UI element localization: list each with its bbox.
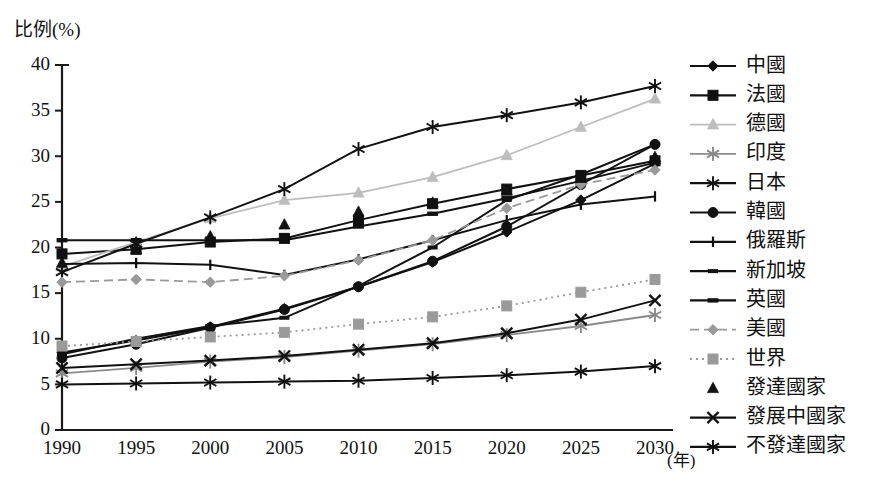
data-point xyxy=(708,90,718,100)
legend-label: 德國 xyxy=(746,112,786,134)
data-point xyxy=(428,312,438,322)
series-德國 xyxy=(56,93,660,271)
x-axis-unit-label: (年) xyxy=(667,451,695,470)
triangle-marker xyxy=(205,231,216,241)
x-tick-label: 2000 xyxy=(191,437,229,458)
data-point xyxy=(353,224,364,228)
legend-item-新加坡[interactable]: 新加坡 xyxy=(690,259,806,281)
square-marker xyxy=(576,287,586,297)
data-point xyxy=(131,274,141,284)
legend-label: 發達國家 xyxy=(746,376,826,398)
bar-marker xyxy=(353,224,364,228)
square-marker xyxy=(428,312,438,322)
data-point xyxy=(131,336,141,346)
data-point xyxy=(427,235,437,245)
data-point xyxy=(57,277,67,287)
square-marker xyxy=(279,327,289,337)
bar-marker xyxy=(57,238,68,242)
series-發展中國家 xyxy=(56,295,660,374)
diamond-marker xyxy=(502,203,512,213)
data-point xyxy=(205,332,215,342)
y-tick-label: 30 xyxy=(31,145,50,166)
x-tick-label: 2020 xyxy=(488,437,526,458)
series-英國 xyxy=(57,160,661,242)
legend-item-韓國[interactable]: 韓國 xyxy=(690,200,786,222)
y-axis-title: 比例(%) xyxy=(14,19,80,41)
bar-marker xyxy=(501,196,512,200)
x-tick-label: 1995 xyxy=(117,437,155,458)
legend-label: 法國 xyxy=(746,83,786,105)
legend-item-法國[interactable]: 法國 xyxy=(690,83,786,105)
y-tick-label: 20 xyxy=(31,236,50,257)
square-marker xyxy=(354,319,364,329)
legend-item-美國[interactable]: 美國 xyxy=(690,317,786,339)
data-point xyxy=(502,301,512,311)
legend-item-俄羅斯[interactable]: 俄羅斯 xyxy=(690,229,806,251)
legend-label: 美國 xyxy=(746,317,786,339)
square-marker xyxy=(57,341,67,351)
triangle-marker xyxy=(649,93,660,103)
data-point xyxy=(353,255,363,265)
data-point xyxy=(708,354,718,364)
data-point xyxy=(708,298,719,302)
series-line xyxy=(62,99,655,267)
legend-item-德國[interactable]: 德國 xyxy=(690,112,786,134)
legend-label: 日本 xyxy=(746,171,786,193)
y-tick-label: 10 xyxy=(31,327,50,348)
data-point xyxy=(57,352,67,356)
legend-label: 不發達國家 xyxy=(746,434,846,456)
legend-label: 俄羅斯 xyxy=(746,229,806,251)
x-tick-label: 2015 xyxy=(414,437,452,458)
square-marker xyxy=(708,354,718,364)
y-tick-label: 35 xyxy=(31,99,50,120)
legend-item-發達國家[interactable]: 發達國家 xyxy=(707,376,826,398)
data-point xyxy=(278,182,290,196)
diamond-marker xyxy=(708,325,718,335)
diamond-marker xyxy=(279,271,289,281)
chart-container: 0510152025303540199019952000200520102015… xyxy=(0,0,891,486)
series-發達國家 xyxy=(56,151,660,267)
dash-marker xyxy=(279,316,289,320)
data-point xyxy=(205,231,216,241)
population-aging-line-chart: 0510152025303540199019952000200520102015… xyxy=(0,0,891,486)
data-point xyxy=(502,203,512,213)
dash-marker xyxy=(57,352,67,356)
data-point xyxy=(650,274,660,284)
circle-marker xyxy=(708,208,718,218)
y-tick-label: 15 xyxy=(31,281,50,302)
data-point xyxy=(57,341,67,351)
data-point xyxy=(205,324,215,328)
legend-item-發展中國家[interactable]: 發展中國家 xyxy=(690,405,846,427)
axis-group: 0510152025303540199019952000200520102015… xyxy=(14,19,695,470)
legend-label: 英國 xyxy=(746,288,786,310)
data-point xyxy=(354,284,364,288)
x-tick-label: 2010 xyxy=(340,437,378,458)
legend-item-世界[interactable]: 世界 xyxy=(690,347,786,369)
y-tick-label: 40 xyxy=(31,53,50,74)
legend: 中國法國德國印度日本韓國俄羅斯新加坡英國美國世界發達國家發展中國家不發達國家 xyxy=(690,54,846,457)
data-point xyxy=(708,269,718,273)
legend-item-中國[interactable]: 中國 xyxy=(690,54,786,76)
legend-item-日本[interactable]: 日本 xyxy=(690,171,786,193)
legend-label: 世界 xyxy=(746,347,786,369)
legend-label: 印度 xyxy=(746,141,786,163)
square-marker xyxy=(708,90,718,100)
legend-label: 新加坡 xyxy=(746,259,806,281)
x-tick-label: 2005 xyxy=(265,437,303,458)
legend-item-印度[interactable]: 印度 xyxy=(690,141,786,163)
legend-label: 中國 xyxy=(746,54,786,76)
series-俄羅斯 xyxy=(62,191,655,280)
legend-label: 發展中國家 xyxy=(746,405,846,427)
triangle-marker xyxy=(707,382,718,392)
y-tick-label: 5 xyxy=(41,373,51,394)
data-point xyxy=(576,287,586,297)
data-point xyxy=(279,316,289,320)
series-group xyxy=(56,79,661,391)
data-point xyxy=(279,238,290,242)
bar-marker xyxy=(131,238,142,242)
legend-item-英國[interactable]: 英國 xyxy=(690,288,786,310)
x-tick-label: 2025 xyxy=(562,437,600,458)
data-point xyxy=(205,277,215,287)
legend-item-不發達國家[interactable]: 不發達國家 xyxy=(690,434,846,456)
bar-marker xyxy=(708,298,719,302)
